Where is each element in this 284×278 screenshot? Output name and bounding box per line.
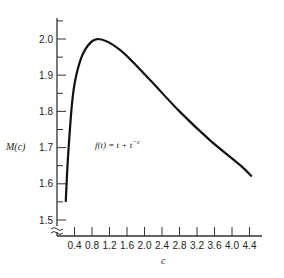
x-tick-label: 0.8 (85, 240, 99, 251)
x-tick-label: 1.6 (120, 240, 134, 251)
y-tick-label: 1.9 (39, 70, 53, 81)
x-tick-label: 3.6 (208, 240, 222, 251)
formula-annotation: f(t) = t + t−c (95, 138, 141, 150)
y-axis: 1.51.61.71.81.92.0 (39, 18, 66, 236)
y-tick-label: 1.5 (39, 215, 53, 226)
y-tick-label: 1.7 (39, 142, 53, 153)
line-chart: 1.51.61.71.81.92.0 0.40.81.21.62.02.42.8… (0, 0, 284, 278)
y-tick-label: 1.6 (39, 178, 53, 189)
x-tick-label: 2.4 (155, 240, 169, 251)
x-tick-label: 1.2 (103, 240, 117, 251)
x-axis-label: c (161, 255, 166, 266)
y-tick-label: 1.8 (39, 106, 53, 117)
x-axis: 0.40.81.21.62.02.42.83.23.64.04.4 (57, 227, 262, 251)
x-tick-label: 2.8 (173, 240, 187, 251)
chart-root: 1.51.61.71.81.92.0 0.40.81.21.62.02.42.8… (0, 0, 284, 278)
x-tick-label: 4.0 (225, 240, 239, 251)
x-tick-label: 3.2 (190, 240, 204, 251)
x-tick-label: 4.4 (243, 240, 257, 251)
y-tick-label: 2.0 (39, 34, 53, 45)
formula-exponent: −c (132, 138, 141, 146)
x-tick-label: 2.0 (138, 240, 152, 251)
x-tick-label: 0.4 (68, 240, 82, 251)
formula-base: f(t) = t + t (95, 140, 133, 150)
y-axis-label: M(c) (5, 141, 26, 153)
data-curve (66, 39, 252, 202)
